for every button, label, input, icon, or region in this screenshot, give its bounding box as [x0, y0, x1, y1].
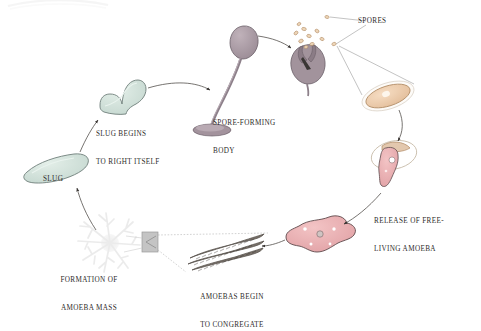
- label-line: AMOEBA MASS: [36, 304, 142, 313]
- amoeba-vacuole: [389, 157, 395, 163]
- label-release-of-free-living-amoeba: RELEASE OF FREE- LIVING AMOEBA: [374, 199, 444, 263]
- amoeba-vacuole: [329, 243, 332, 246]
- amoeba-vacuole: [332, 227, 335, 230]
- label-line: SLUG BEGINS: [96, 130, 160, 139]
- label-line: BODY: [213, 147, 275, 156]
- amoeba-granule: [385, 170, 388, 173]
- amoeba-vacuole: [303, 227, 307, 231]
- label-line: RELEASE OF FREE-: [374, 217, 444, 226]
- callout-box: [142, 232, 158, 252]
- amoeba-nucleus: [317, 231, 323, 237]
- label-line: TO CONGREGATE: [176, 321, 288, 330]
- label-line: SPORE-FORMING: [213, 119, 275, 128]
- amoeba-vacuole: [310, 243, 313, 246]
- label-line: LIVING AMOEBA: [374, 245, 444, 254]
- label-formation-of-amoeba-mass: FORMATION OF AMOEBA MASS: [36, 258, 142, 322]
- label-spore-forming-body: SPORE-FORMING BODY: [213, 101, 275, 165]
- label-slug-begins-to-right-itself: SLUG BEGINS TO RIGHT ITSELF: [96, 112, 160, 176]
- capsule-body: [291, 45, 325, 84]
- spore-particle: [304, 45, 308, 48]
- label-spores: SPORES: [358, 17, 386, 26]
- label-line: FORMATION OF: [36, 276, 142, 285]
- label-line: TO RIGHT ITSELF: [96, 158, 160, 167]
- label-amoebas-begin-to-congregate: AMOEBAS BEGIN TO CONGREGATE: [176, 275, 288, 331]
- label-line: AMOEBAS BEGIN: [176, 293, 288, 302]
- label-slug: SLUG: [43, 175, 63, 184]
